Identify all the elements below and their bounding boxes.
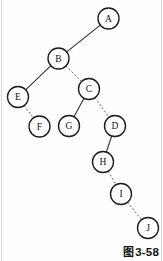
tree-edge-c-d [95, 98, 109, 118]
tree-edge-i-j [128, 202, 142, 220]
node-label-h: H [100, 157, 107, 167]
figure-caption: 图3-58 [0, 243, 159, 259]
tree-edge-c-g [74, 98, 84, 117]
tree-edge-b-e [26, 66, 51, 90]
node-label-b: B [55, 54, 61, 64]
tree-node-h[interactable]: H [93, 152, 114, 173]
node-label-d: D [112, 121, 119, 131]
tree-node-j[interactable]: J [138, 218, 159, 239]
tree-node-b[interactable]: B [48, 48, 69, 69]
tree-node-i[interactable]: I [111, 184, 132, 205]
tree-node-d[interactable]: D [105, 116, 126, 137]
node-label-g: G [66, 121, 73, 131]
binary-tree-diagram: ABCEFGDHIJ [0, 0, 163, 261]
node-label-i: I [119, 189, 122, 199]
node-label-a: A [105, 14, 112, 24]
tree-node-e[interactable]: E [8, 87, 29, 108]
tree-node-c[interactable]: C [79, 79, 100, 100]
node-label-e: E [15, 92, 21, 102]
tree-edge-a-b [67, 25, 101, 52]
node-label-c: C [86, 84, 92, 94]
node-label-j: J [146, 223, 150, 233]
tree-node-a[interactable]: A [98, 8, 119, 29]
tree-edge-d-h [106, 136, 111, 152]
tree-edge-b-c [66, 66, 82, 82]
tree-edge-e-f [24, 105, 33, 118]
figure-container: ABCEFGDHIJ 图3-58 [0, 0, 163, 261]
figure-caption-cjk: 图 [123, 246, 135, 259]
tree-edge-h-i [108, 171, 116, 185]
figure-caption-number: 3-58 [135, 246, 159, 258]
tree-node-g[interactable]: G [59, 116, 80, 137]
node-label-f: F [37, 122, 42, 132]
tree-nodes-layer: ABCEFGDHIJ [8, 8, 159, 239]
tree-node-f[interactable]: F [29, 116, 50, 137]
